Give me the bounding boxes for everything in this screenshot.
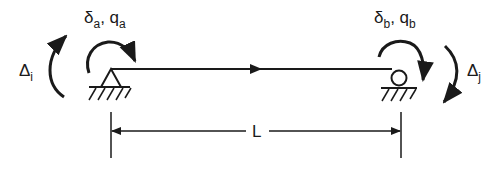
separator: , — [390, 8, 399, 27]
q-b-subscript: b — [409, 17, 416, 31]
length-label: L — [252, 123, 261, 140]
right-rotation-label: Δj — [467, 62, 481, 79]
right-rotation-arrow-icon — [444, 46, 457, 102]
ground-hatch-right — [382, 89, 416, 101]
beam-direction-arrow-icon — [250, 64, 262, 74]
delta-b-subscript: b — [383, 17, 390, 31]
q-a-subscript: a — [119, 17, 126, 31]
capital-delta-j-symbol: Δ — [467, 61, 478, 80]
ground-hatch-left — [89, 88, 131, 100]
capital-delta-i-symbol: Δ — [19, 61, 30, 80]
separator: , — [100, 8, 109, 27]
left-rotation-arrow-icon — [50, 36, 66, 97]
right-end-label: δb, qb — [374, 9, 416, 26]
beam-diagram — [0, 0, 503, 174]
capital-delta-i-subscript: i — [30, 70, 33, 84]
left-end-label: δa, qa — [84, 9, 126, 26]
left-rotation-label: Δi — [19, 62, 33, 79]
right-end-moment-arrow-icon — [379, 41, 424, 80]
beam — [111, 64, 392, 74]
capital-delta-j-subscript: j — [478, 70, 481, 84]
roller-support — [381, 71, 417, 102]
delta-a-subscript: a — [93, 17, 100, 31]
pin-support — [89, 69, 131, 100]
q-a-symbol: q — [110, 8, 119, 27]
q-b-symbol: q — [400, 8, 409, 27]
